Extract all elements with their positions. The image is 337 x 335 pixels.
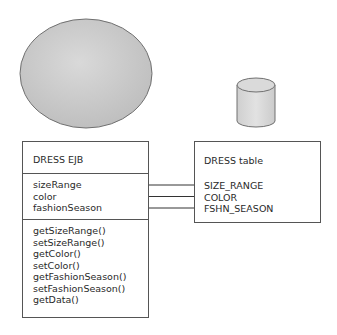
ejb-class-box: DRESS EJB sizeRange color fashionSeason … <box>22 141 149 318</box>
ejb-method: getColor() <box>33 248 126 260</box>
entity-ellipse-icon <box>20 19 152 128</box>
table-column: FSHN_SEASON <box>204 203 273 215</box>
table-title: DRESS table <box>204 155 263 166</box>
ejb-attribute: sizeRange <box>33 179 102 191</box>
ejb-attribute: color <box>33 191 102 203</box>
ejb-method: getData() <box>33 294 126 306</box>
ejb-method: setColor() <box>33 260 126 272</box>
database-table-box: DRESS table SIZE_RANGE COLOR FSHN_SEASON <box>194 141 321 223</box>
ejb-attributes-section: sizeRange color fashionSeason <box>23 173 148 220</box>
ejb-attribute: fashionSeason <box>33 202 102 214</box>
ejb-method: getFashionSeason() <box>33 271 126 283</box>
ejb-method: getSizeRange() <box>33 225 126 237</box>
ejb-methods-section: getSizeRange() setSizeRange() getColor()… <box>23 219 148 317</box>
ejb-method: setSizeRange() <box>33 237 126 249</box>
table-column: SIZE_RANGE <box>204 180 273 192</box>
table-column: COLOR <box>204 192 273 204</box>
ejb-method: setFashionSeason() <box>33 283 126 295</box>
ejb-title: DRESS EJB <box>33 154 83 165</box>
database-cylinder-icon <box>237 78 275 127</box>
